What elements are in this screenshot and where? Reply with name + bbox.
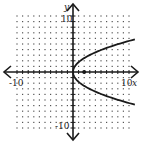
parabola-graph: y x 10 -10 -10 10 — [0, 0, 142, 153]
focus-point — [82, 70, 86, 74]
x-min-tick-label: -10 — [9, 78, 24, 88]
y-max-tick-label: 10 — [61, 14, 73, 24]
y-axis-label: y — [63, 2, 70, 12]
x-max-tick-label: 10 — [121, 78, 133, 88]
y-min-tick-label: -10 — [55, 121, 70, 131]
x-axis-label: x — [132, 78, 137, 88]
axes — [4, 4, 138, 140]
